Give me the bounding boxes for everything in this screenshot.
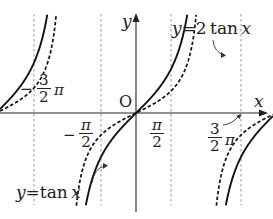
y-axis-arrow-icon	[133, 13, 140, 22]
tick-3pi-2-num: 3	[208, 122, 222, 138]
label-tan-fn: tan	[40, 182, 68, 202]
two-tan-branch	[226, 116, 273, 205]
leader-2tan-arrow-icon	[221, 52, 226, 58]
label-tan: y=tan x	[16, 184, 81, 201]
label-tan-var: x	[71, 182, 81, 202]
leader-2tan	[213, 40, 224, 55]
tick-neg-pi-2-num: π	[79, 118, 93, 134]
tick-neg-3pi-2-num: 3	[37, 73, 51, 89]
tick-neg-3pi-2-pi: π	[54, 83, 64, 98]
y-axis-label: y	[122, 13, 132, 30]
tick-neg-3pi-2-den: 2	[37, 89, 51, 105]
tick-neg-pi-2-sign: −	[63, 128, 76, 143]
label-2tan: y=2 tan x	[172, 20, 251, 37]
tick-3pi-2-den: 2	[208, 138, 222, 154]
label-tan-y: y	[16, 182, 26, 202]
leader-tan-arrow-icon	[103, 163, 108, 169]
tick-3pi-2: 3 2	[208, 122, 222, 154]
x-axis-label: x	[254, 93, 264, 110]
tan-branch	[216, 115, 273, 206]
label-2tan-var: x	[241, 18, 251, 38]
label-2tan-fn: tan	[210, 18, 238, 38]
asymptotes	[34, 14, 241, 205]
leader-3pi2	[223, 116, 239, 125]
tick-pi-2-num: π	[150, 118, 164, 134]
tick-neg-pi-2-den: 2	[79, 134, 93, 150]
tick-neg-3pi-2: 3 2	[37, 73, 51, 105]
tick-neg-3pi-2-sign: −	[20, 82, 33, 97]
label-2tan-y: y	[172, 18, 182, 38]
tick-neg-pi-2: π 2	[79, 118, 93, 150]
label-tan-eq: =	[26, 182, 40, 202]
label-2tan-eq: =	[182, 18, 196, 38]
tick-pi-2: π 2	[150, 118, 164, 150]
tick-pi-2-den: 2	[150, 134, 164, 150]
label-2tan-coef: 2	[196, 18, 207, 38]
origin-label: O	[119, 94, 132, 110]
tick-3pi-2-pi: π	[225, 133, 235, 148]
